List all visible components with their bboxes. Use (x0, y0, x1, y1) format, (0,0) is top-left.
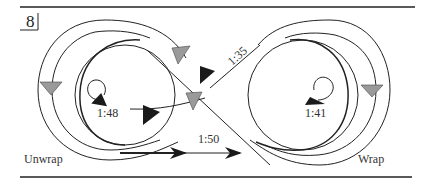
time-label-right: 1:41 (305, 106, 326, 120)
right-heavy-loop (256, 39, 348, 150)
figure-number: 8 (26, 12, 35, 31)
diagonal-dark-arrow (200, 66, 215, 84)
wrap-label: Wrap (358, 152, 384, 166)
top-gray-arrow (172, 46, 190, 64)
right-small-loop (314, 77, 333, 100)
center-gray-arrow (186, 92, 202, 110)
right-inner-circle (248, 40, 358, 150)
figure-number-box: 8 (20, 12, 38, 31)
right-gray-arrow (361, 85, 383, 97)
time-label-left: 1:48 (97, 106, 118, 120)
left-gray-arrow (40, 82, 62, 95)
time-label-bottom: 1:50 (198, 132, 219, 146)
time-label-diagonal: 1:35 (225, 44, 250, 69)
left-loops (38, 20, 186, 160)
figure-8-diagram: 8 1:48 1:41 1:50 1:35 Un (0, 0, 429, 190)
right-center-arrow (305, 97, 325, 105)
unwrap-label: Unwrap (24, 152, 63, 166)
left-outer-arc (38, 20, 186, 160)
right-middle-arc (265, 33, 376, 155)
